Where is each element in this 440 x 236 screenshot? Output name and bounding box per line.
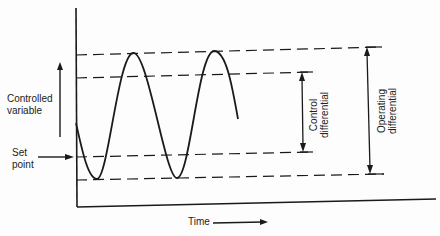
diagram-canvas [0,0,440,236]
arrowhead-icon [65,154,74,160]
set-point-label: Set point [12,147,34,171]
operating-differential-arrow [367,52,370,169]
operating-differential-label-line: differential [387,78,398,144]
arrowhead-icon [260,219,268,225]
control-differential-arrow [302,77,303,147]
set-point-label-line: Set [12,147,34,159]
y-axis-label-line: variable [7,105,53,117]
control-differential-label-line: differential [319,85,330,145]
time-arrow [213,222,263,223]
x-axis-label: Time [188,216,210,228]
set-point-label-line: point [12,159,34,171]
arrowhead-icon [364,47,370,56]
arrowhead-icon [299,72,305,81]
control-differential-label: Control differential [308,85,332,145]
operating-lower-limit [76,174,384,180]
arrowhead-icon [300,143,306,152]
y-axis-label: Controlled variable [7,93,53,117]
y-axis-label-line: Controlled [7,93,53,105]
arrowhead-icon [57,62,63,70]
x-axis [77,199,436,207]
y-axis [76,8,77,207]
control-differential-label-line: Control [308,85,319,145]
control-upper-limit [76,72,313,78]
controlled-variable-curve [76,51,238,179]
operating-differential-label: Operating differential [376,78,400,144]
arrowhead-icon [367,165,373,174]
control-lower-limit [76,152,313,157]
operating-differential-label-line: Operating [376,78,387,144]
operating-upper-limit [76,47,382,55]
